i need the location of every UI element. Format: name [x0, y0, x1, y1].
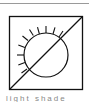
light-shade-icon [0, 0, 89, 102]
caption-label: light shade [6, 94, 67, 102]
